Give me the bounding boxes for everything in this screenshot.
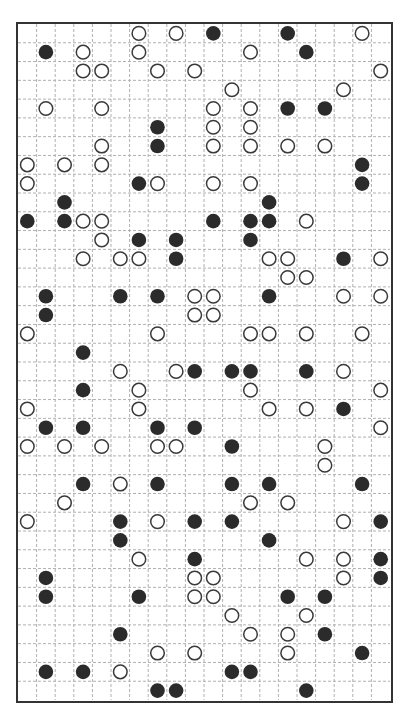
black-pearl-icon xyxy=(280,26,295,41)
white-pearl-icon xyxy=(207,308,221,322)
white-pearl-icon xyxy=(300,609,314,623)
white-pearl-icon xyxy=(169,440,183,454)
white-pearl-icon xyxy=(95,233,109,247)
white-pearl-icon xyxy=(95,102,109,116)
white-pearl-icon xyxy=(21,440,35,454)
black-pearl-icon xyxy=(262,214,277,229)
black-pearl-icon xyxy=(76,665,91,680)
white-pearl-icon xyxy=(262,327,276,341)
white-pearl-icon xyxy=(21,177,35,191)
white-pearl-icon xyxy=(281,646,295,660)
black-pearl-icon xyxy=(336,251,351,266)
white-pearl-icon xyxy=(21,327,35,341)
black-pearl-icon xyxy=(76,420,91,435)
black-pearl-icon xyxy=(299,364,314,379)
white-pearl-icon xyxy=(225,83,239,97)
white-pearl-icon xyxy=(95,440,109,454)
white-pearl-icon xyxy=(244,102,258,116)
black-pearl-icon xyxy=(20,214,35,229)
white-pearl-icon xyxy=(132,552,146,566)
black-pearl-icon xyxy=(225,665,240,680)
black-pearl-icon xyxy=(150,289,165,304)
white-pearl-icon xyxy=(207,102,221,116)
black-pearl-icon xyxy=(150,683,165,698)
black-pearl-icon xyxy=(225,477,240,492)
black-pearl-icon xyxy=(39,589,54,604)
black-pearl-icon xyxy=(373,514,388,529)
black-pearl-icon xyxy=(187,420,202,435)
white-pearl-icon xyxy=(151,177,165,191)
white-pearl-icon xyxy=(374,252,388,266)
white-pearl-icon xyxy=(58,496,72,510)
white-pearl-icon xyxy=(281,271,295,285)
black-pearl-icon xyxy=(336,402,351,417)
black-pearl-icon xyxy=(355,477,370,492)
white-pearl-icon xyxy=(244,120,258,134)
white-pearl-icon xyxy=(207,571,221,585)
black-pearl-icon xyxy=(150,477,165,492)
white-pearl-icon xyxy=(207,289,221,303)
black-pearl-icon xyxy=(150,120,165,135)
black-pearl-icon xyxy=(280,101,295,116)
white-pearl-icon xyxy=(151,327,165,341)
white-pearl-icon xyxy=(169,365,183,379)
black-pearl-icon xyxy=(150,139,165,154)
black-pearl-icon xyxy=(150,420,165,435)
black-pearl-icon xyxy=(262,477,277,492)
masyu-board[interactable] xyxy=(16,22,393,703)
grid-lines xyxy=(18,24,390,700)
white-pearl-icon xyxy=(300,214,314,228)
white-pearl-icon xyxy=(337,571,351,585)
white-pearl-icon xyxy=(281,496,295,510)
black-pearl-icon xyxy=(39,571,54,586)
white-pearl-icon xyxy=(281,139,295,153)
black-pearl-icon xyxy=(57,214,72,229)
white-pearl-icon xyxy=(337,83,351,97)
white-pearl-icon xyxy=(188,64,202,78)
white-pearl-icon xyxy=(374,289,388,303)
white-pearl-icon xyxy=(76,252,90,266)
white-pearl-icon xyxy=(337,515,351,529)
white-pearl-icon xyxy=(114,477,128,491)
white-pearl-icon xyxy=(58,158,72,172)
black-pearl-icon xyxy=(113,627,128,642)
white-pearl-icon xyxy=(95,139,109,153)
black-pearl-icon xyxy=(132,176,147,191)
white-pearl-icon xyxy=(188,571,202,585)
black-pearl-icon xyxy=(318,627,333,642)
white-pearl-icon xyxy=(207,590,221,604)
black-pearl-icon xyxy=(113,533,128,548)
black-pearl-icon xyxy=(169,233,184,248)
black-pearl-icon xyxy=(355,646,370,661)
black-pearl-icon xyxy=(169,251,184,266)
white-pearl-icon xyxy=(244,383,258,397)
white-pearl-icon xyxy=(114,665,128,679)
white-pearl-icon xyxy=(337,289,351,303)
white-pearl-icon xyxy=(188,590,202,604)
white-pearl-icon xyxy=(244,327,258,341)
black-pearl-icon xyxy=(280,589,295,604)
white-pearl-icon xyxy=(318,458,332,472)
white-pearl-icon xyxy=(21,515,35,529)
black-pearl-icon xyxy=(132,233,147,248)
white-pearl-icon xyxy=(244,177,258,191)
white-pearl-icon xyxy=(21,402,35,416)
white-pearl-icon xyxy=(151,646,165,660)
white-pearl-icon xyxy=(76,64,90,78)
black-pearl-icon xyxy=(262,289,277,304)
white-pearl-icon xyxy=(337,552,351,566)
white-pearl-icon xyxy=(318,440,332,454)
white-pearl-icon xyxy=(114,252,128,266)
black-pearl-icon xyxy=(39,665,54,680)
black-pearl-icon xyxy=(113,289,128,304)
puzzle-grid[interactable] xyxy=(18,24,390,700)
white-pearl-icon xyxy=(318,139,332,153)
white-pearl-icon xyxy=(39,102,53,116)
black-pearl-icon xyxy=(76,383,91,398)
white-pearl-icon xyxy=(207,139,221,153)
white-pearl-icon xyxy=(188,289,202,303)
white-pearl-icon xyxy=(95,64,109,78)
black-pearl-icon xyxy=(225,364,240,379)
white-pearl-icon xyxy=(132,383,146,397)
white-pearl-icon xyxy=(188,308,202,322)
